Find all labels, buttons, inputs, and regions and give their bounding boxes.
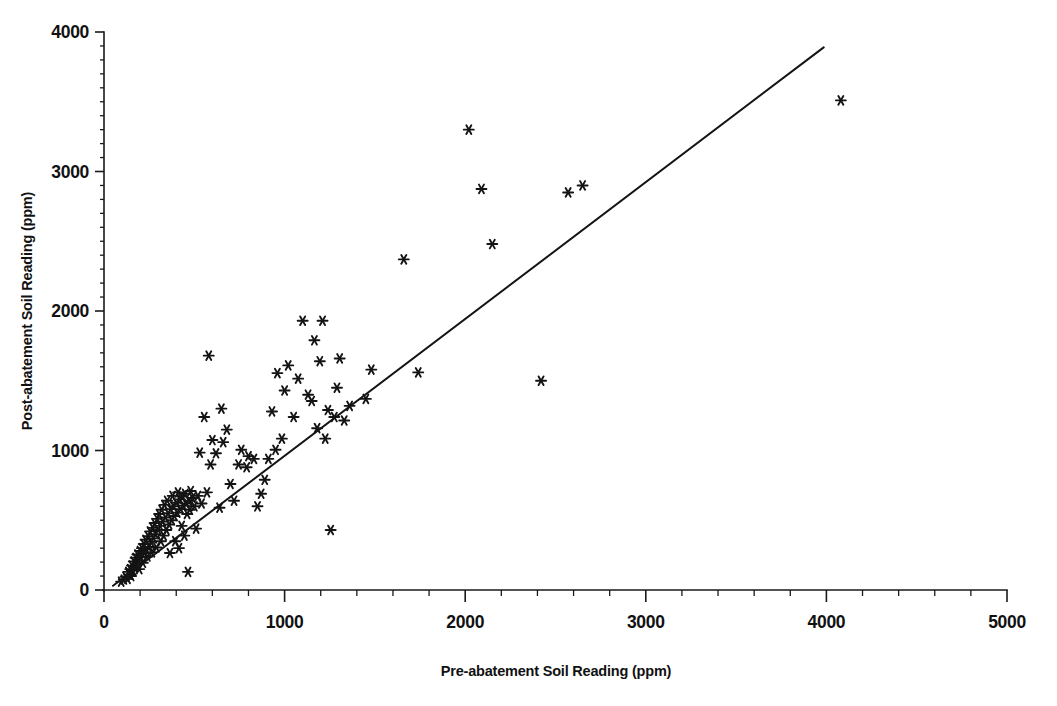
data-point-marker xyxy=(307,397,317,406)
data-point-marker xyxy=(464,125,474,134)
data-point-marker xyxy=(476,185,486,194)
y-axis-tick-label: 0 xyxy=(80,580,90,600)
data-point-marker xyxy=(165,549,175,558)
data-point-marker xyxy=(413,368,423,377)
data-point-marker xyxy=(298,316,308,325)
x-axis-tick-label: 5000 xyxy=(988,612,1026,632)
data-point-marker xyxy=(326,526,336,535)
data-point-marker xyxy=(207,436,217,445)
data-point-marker xyxy=(195,448,205,457)
data-point-marker xyxy=(293,374,303,383)
data-point-marker xyxy=(836,96,846,105)
data-point-marker xyxy=(320,434,330,443)
scatter-plot-figure: 01000200030004000 010002000300040005000 … xyxy=(0,0,1057,706)
y-axis-tick-label: 2000 xyxy=(51,301,89,321)
data-points-layer xyxy=(116,96,846,586)
x-axis-tick-label: 1000 xyxy=(266,612,304,632)
data-point-marker xyxy=(183,568,193,577)
data-point-marker xyxy=(211,449,221,458)
data-point-marker xyxy=(578,181,588,190)
data-point-marker xyxy=(332,383,342,392)
data-point-marker xyxy=(218,438,228,447)
data-point-marker xyxy=(563,188,573,197)
plot-canvas: 01000200030004000 010002000300040005000 … xyxy=(0,0,1057,706)
data-point-marker xyxy=(399,255,409,264)
data-point-marker xyxy=(289,413,299,422)
data-point-marker xyxy=(318,316,328,325)
data-point-marker xyxy=(315,357,325,366)
x-axis-tick-label: 2000 xyxy=(446,612,484,632)
y-axis-tick-label: 4000 xyxy=(51,22,89,42)
data-point-marker xyxy=(253,502,263,511)
data-point-marker xyxy=(536,376,546,385)
data-point-marker xyxy=(206,460,216,469)
data-point-marker xyxy=(222,425,232,434)
y-axis-title: Post-abatement Soil Reading (ppm) xyxy=(19,191,35,430)
data-point-marker xyxy=(263,455,273,464)
data-point-marker xyxy=(256,489,266,498)
data-point-marker xyxy=(277,434,287,443)
x-axis: 010002000300040005000 xyxy=(99,590,1026,632)
data-point-marker xyxy=(303,390,313,399)
data-point-marker xyxy=(216,404,226,413)
data-point-marker xyxy=(487,240,497,249)
x-axis-tick-label: 0 xyxy=(99,612,109,632)
x-axis-tick-label: 4000 xyxy=(808,612,846,632)
data-point-marker xyxy=(309,336,319,345)
x-axis-tick-label: 3000 xyxy=(627,612,665,632)
data-point-marker xyxy=(339,416,349,425)
data-point-marker xyxy=(260,475,270,484)
data-point-marker xyxy=(177,521,187,530)
data-point-marker xyxy=(267,407,277,416)
data-point-marker xyxy=(271,445,281,454)
data-point-marker xyxy=(366,365,376,374)
data-point-marker xyxy=(174,544,184,553)
y-axis: 01000200030004000 xyxy=(51,22,104,600)
data-point-marker xyxy=(225,480,235,489)
y-axis-tick-label: 3000 xyxy=(51,162,89,182)
data-point-marker xyxy=(283,361,293,370)
y-axis-tick-label: 1000 xyxy=(51,441,89,461)
data-point-marker xyxy=(236,445,246,454)
data-point-marker xyxy=(199,413,209,422)
data-point-marker xyxy=(204,351,214,360)
data-point-marker xyxy=(280,386,290,395)
x-axis-title: Pre-abatement Soil Reading (ppm) xyxy=(441,663,672,679)
data-point-marker xyxy=(335,354,345,363)
data-point-marker xyxy=(272,369,282,378)
